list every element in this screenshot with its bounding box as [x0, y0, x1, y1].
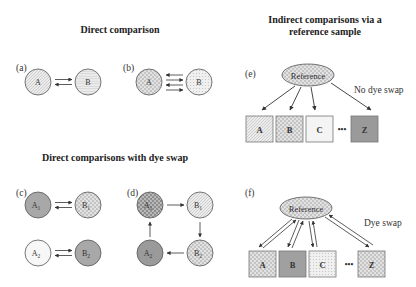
diagram-canvas: A B A B A1 B1 A2 B2 A1 B1 B2 — [0, 0, 416, 287]
svg-text:Z: Z — [362, 125, 368, 135]
svg-text:B: B — [290, 260, 296, 270]
svg-text:B: B — [196, 78, 201, 87]
panel-a: A B — [25, 69, 101, 95]
svg-text:C: C — [319, 260, 325, 270]
panel-b: A B — [136, 69, 212, 95]
panel-f: Reference A B C ••• Z — [249, 197, 385, 277]
svg-text:Reference: Reference — [289, 204, 324, 214]
panel-d: A1 B1 B2 A2 — [137, 192, 213, 266]
svg-text:A: A — [146, 78, 152, 87]
svg-text:Reference: Reference — [291, 71, 326, 81]
panel-e: Reference A B C ••• Z — [246, 64, 378, 142]
panel-c: A1 B1 A2 B2 — [25, 192, 101, 266]
svg-text:C: C — [316, 125, 322, 135]
svg-text:Z: Z — [369, 260, 375, 270]
svg-text:•••: ••• — [338, 125, 347, 134]
svg-text:•••: ••• — [345, 260, 354, 269]
svg-text:A: A — [35, 78, 41, 87]
svg-text:A: A — [256, 125, 263, 135]
svg-text:B: B — [85, 78, 90, 87]
svg-text:A: A — [259, 260, 266, 270]
svg-text:B: B — [287, 125, 293, 135]
